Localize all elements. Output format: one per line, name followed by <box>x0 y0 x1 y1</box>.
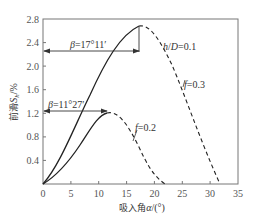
svg-text:30: 30 <box>205 188 215 199</box>
svg-text:1.2: 1.2 <box>27 108 40 119</box>
svg-text:2.0: 2.0 <box>27 61 40 72</box>
y-tick-labels: 0.4 0.8 1.2 1.6 2.0 2.4 2.8 <box>27 14 40 166</box>
svg-text:2.4: 2.4 <box>27 37 40 48</box>
svg-text:1.6: 1.6 <box>27 84 40 95</box>
svg-text:25: 25 <box>177 188 187 199</box>
svg-text:5: 5 <box>68 188 73 199</box>
svg-text:0: 0 <box>41 188 46 199</box>
annotation-beta-1: β=17°11′ <box>69 39 106 50</box>
svg-text:0.4: 0.4 <box>27 155 40 166</box>
svg-text:0.8: 0.8 <box>27 131 40 142</box>
x-tick-labels: 0 5 10 15 20 25 30 35 <box>41 188 244 199</box>
svg-text:20: 20 <box>149 188 159 199</box>
svg-text:35: 35 <box>233 188 243 199</box>
chart: 0.4 0.8 1.2 1.6 2.0 2.4 2.8 0 5 10 15 20… <box>0 0 255 217</box>
annotation-hd: h/D=0.1 <box>163 41 196 52</box>
annotation-f-0.2: f=0.2 <box>135 122 156 133</box>
series-f-0.2-solid <box>43 113 107 184</box>
svg-text:15: 15 <box>122 188 132 199</box>
y-axis-label: 前滑Sh/% <box>8 83 21 121</box>
svg-text:2.8: 2.8 <box>27 14 40 25</box>
x-axis-label: 吸入角α/(°) <box>119 202 165 214</box>
annotation-f-0.3: f=0.3 <box>184 79 205 90</box>
annotation-beta-2: β=11°27′ <box>47 99 84 110</box>
svg-text:10: 10 <box>94 188 104 199</box>
